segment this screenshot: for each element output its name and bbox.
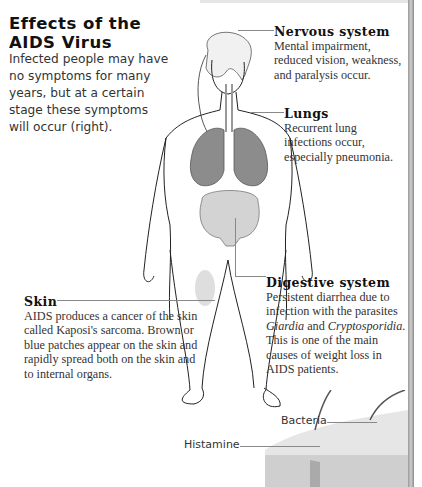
callout-nervous: Nervous system Mental impairment, reduce… xyxy=(274,24,406,82)
skin-text: AIDS produces a cancer of the skin calle… xyxy=(24,309,206,381)
leader-bacteria xyxy=(327,422,377,423)
leader-lungs xyxy=(251,112,284,113)
callout-digestive: Digestive system Persistent diarrhea due… xyxy=(266,275,406,376)
lungs-heading: Lungs xyxy=(284,106,406,121)
page-edge-bar xyxy=(408,0,414,487)
callout-lungs: Lungs Recurrent lung infections occur, e… xyxy=(284,106,406,164)
nervous-heading: Nervous system xyxy=(274,24,406,39)
lungs-text: Recurrent lung infections occur, especia… xyxy=(284,121,406,164)
digestive-heading: Digestive system xyxy=(266,275,406,290)
leader-digestive-v xyxy=(235,218,236,276)
title-line-1: Effects of the xyxy=(9,14,141,33)
histamine-label: Histamine xyxy=(184,438,240,451)
skin-heading: Skin xyxy=(24,294,206,309)
top-band xyxy=(200,0,408,3)
bacteria-label: Bacteria xyxy=(281,414,327,427)
skin-cross-section-illustration xyxy=(265,390,408,487)
title-line-2: AIDS Virus xyxy=(9,33,141,52)
callout-skin: Skin AIDS produces a cancer of the skin … xyxy=(24,294,206,381)
leader-histamine xyxy=(240,446,320,447)
nervous-text: Mental impairment, reduced vision, weakn… xyxy=(274,39,406,82)
leader-digestive-h xyxy=(235,276,266,277)
digestive-text: Persistent diarrhea due to infection wit… xyxy=(266,290,406,376)
page-title: Effects of the AIDS Virus xyxy=(9,14,141,52)
leader-nervous xyxy=(238,30,274,31)
